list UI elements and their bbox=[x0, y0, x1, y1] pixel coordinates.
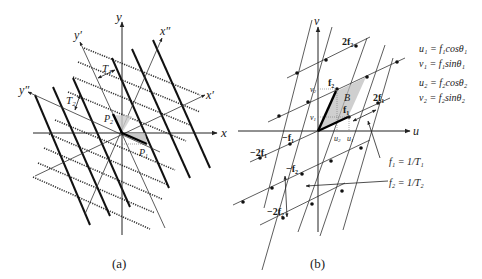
main-axes-a bbox=[33, 22, 217, 235]
y-axis-label: y bbox=[114, 9, 122, 24]
figure: y x y′ x″ x′ y″ T1 T2 P2 P1 (a) bbox=[0, 0, 482, 279]
dotted-grating-lines bbox=[33, 48, 200, 229]
x-prime-label: x′ bbox=[205, 88, 214, 102]
x-dprime-label: x″ bbox=[159, 24, 171, 38]
equation-u2: u₂ = f₂cosθ₂ bbox=[419, 77, 468, 88]
lattice-points bbox=[241, 44, 399, 220]
T2-label: T2 bbox=[66, 94, 76, 108]
steep-lattice-lines bbox=[262, 20, 393, 270]
v1-label: v1 bbox=[310, 113, 316, 122]
neg-f2-label: −f2 bbox=[286, 163, 298, 175]
f2-period-annotation: f₂ = 1/T₂ bbox=[389, 177, 424, 188]
neg-two-f2-label: −2f2 bbox=[267, 206, 284, 218]
T1-label: T1 bbox=[102, 62, 112, 76]
u2-label: u2 bbox=[334, 134, 341, 143]
x-axis-label: x bbox=[220, 125, 227, 140]
caption-b: (b) bbox=[310, 256, 325, 271]
v-axis-label: v bbox=[314, 14, 320, 28]
P1-label: P1 bbox=[138, 147, 148, 159]
u-axis-label: u bbox=[413, 124, 419, 138]
equations: u₁ = f₁cosθ₁ v₁ = f₁sinθ₁ u₂ = f₂cosθ₂ v… bbox=[419, 43, 468, 103]
equation-v1: v₁ = f₁sinθ₁ bbox=[419, 58, 465, 69]
neg-two-f1-label: −2f1 bbox=[250, 147, 267, 159]
f1-period-annotation: f₁ = 1/T₁ bbox=[389, 156, 424, 167]
panel-b: v u 2f2 f2 B f1 2f1 −f1 −2f1 −f2 −2f2 v2… bbox=[233, 14, 468, 271]
equation-v2: v₂ = f₂sinθ₂ bbox=[419, 92, 466, 103]
equation-u1: u₁ = f₁cosθ₁ bbox=[419, 43, 467, 54]
B-label: B bbox=[344, 92, 350, 103]
y-prime-label: y′ bbox=[73, 28, 82, 42]
two-f2-label: 2f2 bbox=[342, 36, 353, 48]
y-dprime-label: y″ bbox=[18, 83, 30, 97]
caption-a: (a) bbox=[112, 256, 126, 271]
panel-a: y x y′ x″ x′ y″ T1 T2 P2 P1 (a) bbox=[18, 9, 227, 271]
neg-f1-label: −f1 bbox=[282, 132, 294, 144]
f2-label: f2 bbox=[328, 77, 334, 89]
v2-label: v2 bbox=[310, 85, 317, 94]
P2-label: P2 bbox=[103, 113, 113, 125]
u1-label: u1 bbox=[347, 134, 354, 143]
